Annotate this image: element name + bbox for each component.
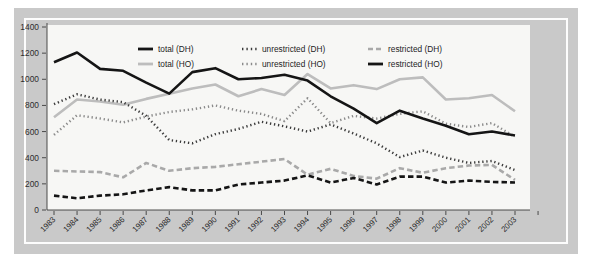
x-tick-label: 2001: [453, 215, 472, 234]
y-tick-label: 0: [34, 205, 39, 215]
legend-label: restricted (DH): [388, 44, 442, 54]
legend-item: restricted (HO): [368, 59, 443, 69]
x-tick-label: 2003: [499, 215, 518, 234]
legend-item: total (DH): [138, 44, 194, 54]
x-tick-label: 1989: [177, 215, 196, 234]
x-tick-label: 1996: [338, 215, 357, 234]
x-axis: 1983198419851986198719881989199019911992…: [38, 210, 538, 234]
legend-label: unrestricted (DH): [262, 44, 325, 54]
legend-label: total (HO): [158, 59, 194, 69]
x-tick-label: 1984: [62, 215, 81, 234]
chart-figure: 0200400600800100012001400 19831984198519…: [0, 0, 592, 264]
y-tick-label: 600: [25, 127, 39, 137]
y-tick-label: 1200: [20, 48, 39, 58]
series-line-restricted-dh: [54, 159, 515, 180]
x-tick-label: 1986: [108, 215, 127, 234]
x-tick-label: 1991: [223, 215, 242, 234]
series-line-total-ho: [54, 74, 515, 117]
y-tick-label: 200: [25, 179, 39, 189]
legend-item: unrestricted (HO): [242, 59, 326, 69]
x-tick-label: 1988: [154, 215, 173, 234]
legend-label: total (DH): [158, 44, 194, 54]
y-tick-label: 1000: [20, 74, 39, 84]
x-tick-label: 2002: [476, 215, 495, 234]
legend-item: restricted (DH): [368, 44, 442, 54]
y-tick-label: 400: [25, 153, 39, 163]
series-line-restricted-ho: [54, 175, 515, 198]
x-tick-label: 1997: [361, 215, 380, 234]
x-tick-label: 1994: [292, 215, 311, 234]
legend-label: unrestricted (HO): [262, 59, 326, 69]
line-chart: 0200400600800100012001400 19831984198519…: [0, 0, 592, 264]
x-tick-label: 1990: [200, 215, 219, 234]
y-tick-label: 800: [25, 100, 39, 110]
legend-label: restricted (HO): [388, 59, 443, 69]
legend-item: total (HO): [138, 59, 194, 69]
x-tick-label: 1995: [315, 215, 334, 234]
x-tick-label: 1999: [407, 215, 426, 234]
chart-legend: total (DH)unrestricted (DH)restricted (D…: [138, 44, 443, 69]
x-tick-label: 1987: [131, 215, 150, 234]
y-tick-label: 1400: [20, 22, 39, 32]
y-axis: 0200400600800100012001400: [20, 22, 47, 215]
x-tick-label: 1998: [384, 215, 403, 234]
x-tick-label: 1993: [269, 215, 288, 234]
x-tick-label: 1983: [38, 215, 57, 234]
x-tick-label: 1985: [85, 215, 104, 234]
x-tick-label: 2000: [430, 215, 449, 234]
legend-item: unrestricted (DH): [242, 44, 325, 54]
x-tick-label: 1992: [246, 215, 265, 234]
series-layer: [54, 52, 515, 198]
